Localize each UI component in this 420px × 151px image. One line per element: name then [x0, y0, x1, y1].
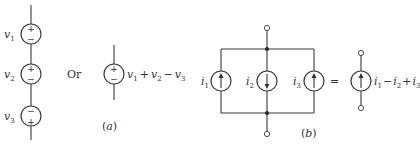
- bottom-terminal: [358, 105, 363, 110]
- figure-b-parallel-current-sources: i1 i2 i3: [201, 25, 324, 136]
- minus-sign: −: [27, 106, 35, 116]
- source-label: v1: [4, 28, 15, 43]
- equivalent-current-expression: i1−i2+i3: [374, 75, 420, 90]
- bottom-terminal: [264, 131, 269, 136]
- plus-sign: +: [27, 64, 35, 74]
- equals-sign: =: [330, 75, 339, 88]
- equivalent-voltage-expression: v1+v2−v3: [127, 68, 186, 83]
- figure-b-caption: (b): [301, 127, 317, 140]
- figure-b-equivalent-source: i1−i2+i3: [351, 50, 420, 110]
- plus-sign: +: [27, 24, 35, 34]
- plus-sign: +: [27, 117, 35, 127]
- minus-sign: −: [27, 34, 35, 44]
- current-source-i2: i2: [246, 71, 277, 91]
- current-source-i3: i3: [293, 71, 324, 91]
- figure-a-series-voltage-sources: + − v1 + − v2 − + v3: [4, 5, 41, 140]
- minus-sign: −: [110, 74, 118, 84]
- figure-a-equivalent-source: + − v1+v2−v3: [104, 45, 186, 100]
- plus-sign: +: [110, 64, 118, 74]
- voltage-source-v2: + − v2: [4, 64, 41, 84]
- source-label: i3: [293, 75, 301, 90]
- source-label: i1: [201, 75, 209, 90]
- voltage-source-v1: + − v1: [4, 24, 41, 44]
- voltage-source-v3: − + v3: [4, 106, 41, 127]
- minus-sign: −: [27, 74, 35, 84]
- top-terminal: [264, 25, 269, 30]
- figure-a-caption: (a): [102, 120, 117, 133]
- or-label: Or: [67, 68, 82, 81]
- source-label: i2: [246, 75, 254, 90]
- source-label: v3: [4, 110, 15, 125]
- current-source-i1: i1: [201, 71, 231, 91]
- top-terminal: [358, 50, 363, 55]
- source-label: v2: [4, 68, 15, 83]
- circuit-figure: + − v1 + − v2 − + v3 Or + − v1+v2−v3 (a): [0, 0, 420, 151]
